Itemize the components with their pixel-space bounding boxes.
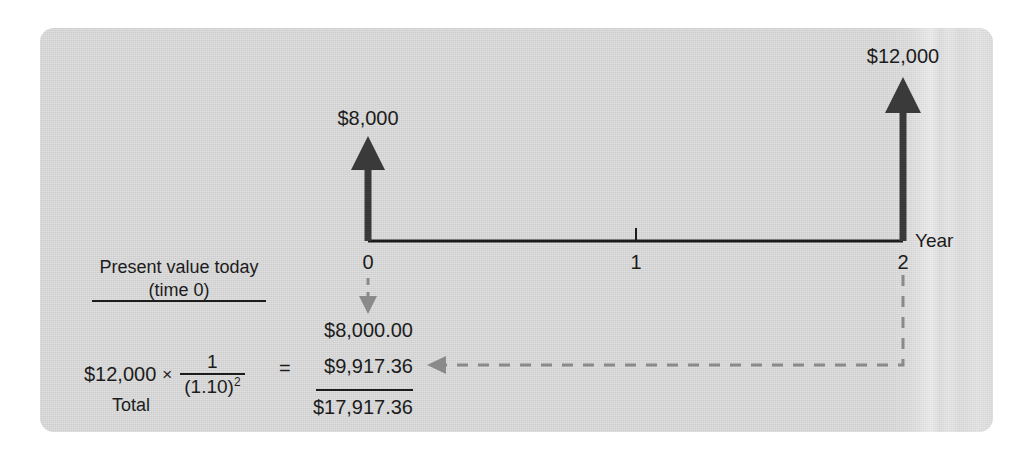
panel-value-row-1: $8,000.00 <box>324 320 413 340</box>
timeline-tick-label-1: 1 <box>630 252 641 272</box>
panel-heading-line-2: (time 0) <box>148 281 209 299</box>
cash-flow-label-year0: $8,000 <box>337 108 398 128</box>
present-value-formula: $12,000 × 1 (1.10)2 <box>84 352 253 397</box>
panel-value-row-2: $9,917.36 <box>324 356 413 376</box>
formula-fraction: 1 (1.10)2 <box>180 352 244 397</box>
panel-total-value: $17,917.36 <box>313 397 413 417</box>
formula-equals-sign: = <box>279 358 291 378</box>
formula-times-symbol: × <box>162 365 172 385</box>
panel-heading-line-1: Present value today <box>99 258 258 276</box>
timeline-tick-label-0: 0 <box>362 252 373 272</box>
figure-root: $8,000 $12,000 0 1 2 Year Present value … <box>0 0 1034 464</box>
formula-denominator-exponent: 2 <box>234 375 241 389</box>
formula-denominator-base: (1.10) <box>184 376 234 397</box>
formula-numerator: 1 <box>203 352 222 373</box>
formula-base: $12,000 <box>84 363 156 386</box>
formula-denominator: (1.10)2 <box>180 375 244 397</box>
panel-total-label: Total <box>112 396 150 414</box>
timeline-tick-label-2: 2 <box>897 252 908 272</box>
cash-flow-label-year2: $12,000 <box>867 46 939 66</box>
timeline-axis-caption: Year <box>915 231 953 250</box>
